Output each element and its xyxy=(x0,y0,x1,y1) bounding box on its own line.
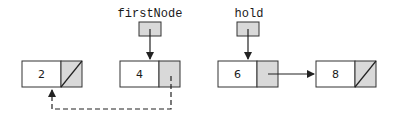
node-value: 2 xyxy=(38,68,45,81)
linked-list-diagram: firstNode hold 2 4 6 8 xyxy=(0,0,394,118)
node-8: 8 xyxy=(316,61,376,87)
node-value: 8 xyxy=(332,68,339,81)
reference-label-firstNode: firstNode xyxy=(118,7,183,21)
reference-firstNode: firstNode xyxy=(118,7,183,59)
node-4: 4 xyxy=(120,61,180,87)
node-2: 2 xyxy=(22,61,82,87)
reference-label-hold: hold xyxy=(235,7,264,21)
node-value: 4 xyxy=(136,68,143,81)
node-pointer-cell xyxy=(159,61,180,87)
node-value: 6 xyxy=(234,68,241,81)
reference-hold: hold xyxy=(235,7,264,59)
